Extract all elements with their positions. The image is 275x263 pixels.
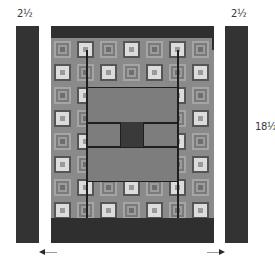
strip-length-label: 18½ (255, 121, 275, 132)
center-dark-square (120, 122, 144, 147)
quilt-block (97, 38, 120, 61)
quilt-block (189, 38, 212, 61)
quilt-block (189, 84, 212, 107)
quilt-block (189, 107, 212, 130)
quilt-block (51, 38, 74, 61)
quilt-block (51, 153, 74, 176)
quilt-block (97, 61, 120, 84)
right-border-strip (225, 26, 248, 243)
quilt-block (51, 130, 74, 153)
right-strip-width-label: 2½ (231, 8, 246, 19)
quilt-center (51, 26, 214, 243)
quilt-block (51, 84, 74, 107)
center-panel (87, 87, 178, 182)
quilt-block (189, 130, 212, 153)
bottom-border-band (51, 218, 214, 243)
quilt-block (143, 38, 166, 61)
quilt-block (51, 107, 74, 130)
quilt-block (189, 153, 212, 176)
quilt-block (189, 61, 212, 84)
quilt-block (120, 38, 143, 61)
quilt-block (120, 61, 143, 84)
quilt-block (51, 61, 74, 84)
quilt-block (143, 61, 166, 84)
left-strip-width-label: 2½ (17, 8, 32, 19)
quilt-block (189, 176, 212, 199)
quilt-block (51, 176, 74, 199)
left-border-strip (16, 26, 39, 243)
